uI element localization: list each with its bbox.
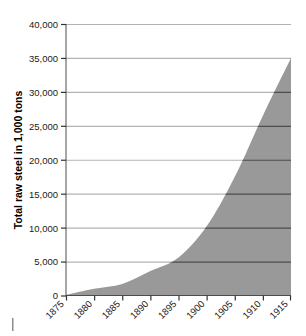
chart-container: 05,00010,00015,00020,00025,00030,00035,0…: [0, 0, 306, 336]
y-axis-tick-label: 30,000: [29, 87, 58, 98]
y-axis-tick-label: 25,000: [29, 121, 58, 132]
y-axis-title: Total raw steel in 1,000 tons: [12, 90, 24, 229]
y-axis-tick-label: 10,000: [29, 223, 58, 234]
y-axis-tick-label: 20,000: [29, 155, 58, 166]
y-axis-tick-label: 5,000: [34, 256, 58, 267]
area-chart: 05,00010,00015,00020,00025,00030,00035,0…: [0, 0, 306, 336]
y-axis-tick-label: 35,000: [29, 53, 58, 64]
y-axis-tick-label: 40,000: [29, 19, 58, 30]
y-axis-tick-label: 15,000: [29, 189, 58, 200]
page-margin-mark: [12, 318, 14, 331]
